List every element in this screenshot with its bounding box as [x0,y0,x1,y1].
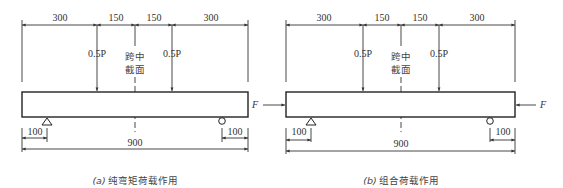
support-dim-left: 100 [292,126,307,137]
load-label-right: 0.5P [163,48,182,59]
support-dim-right: 100 [228,126,243,137]
beam-loading-diagram: 300 150 150 300 0.5P 0.5P 跨中 截面 100 100 … [0,0,563,188]
load-label-left: 0.5P [354,48,373,59]
dim-label: 300 [470,12,485,23]
support-dim-left: 100 [28,126,43,137]
pin-support-icon [42,118,52,125]
roller-support-icon [219,118,226,125]
pin-support-icon [306,118,316,125]
axial-force-right: F [539,99,547,110]
beam [286,92,515,117]
dim-label: 150 [413,12,428,23]
dim-label: 150 [375,12,390,23]
dim-label: 150 [109,12,124,23]
caption-a: (a)纯弯矩荷载作用 [92,175,177,186]
dim-label: 300 [317,12,332,23]
total-length-dim: 900 [128,137,143,148]
dim-label: 300 [53,12,68,23]
dim-label: 150 [147,12,162,23]
beam [22,92,248,117]
caption-b: (b)组合荷载作用 [363,175,438,186]
load-label-left: 0.5P [88,48,107,59]
midspan-label-line1: 跨中 [391,51,411,62]
panel-b: 300 150 150 300 0.5P 0.5P 跨中 截面 F F 100 … [251,12,547,186]
load-label-right: 0.5P [430,48,449,59]
roller-support-icon [487,118,494,125]
midspan-label-line2: 截面 [125,64,145,75]
support-dim-right: 100 [496,126,511,137]
midspan-label-line2: 截面 [391,64,411,75]
panel-a: 300 150 150 300 0.5P 0.5P 跨中 截面 100 100 … [22,12,248,186]
midspan-label-line1: 跨中 [125,51,145,62]
total-length-dim: 900 [394,138,409,149]
axial-force-left: F [251,99,259,110]
dim-label: 300 [204,12,219,23]
